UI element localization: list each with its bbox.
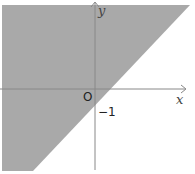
y-axis-label: y: [97, 3, 106, 18]
shaded-region: [2, 5, 190, 171]
inequality-graph: y x O −1: [0, 0, 195, 174]
y-intercept-label: −1: [98, 105, 116, 119]
x-axis-label: x: [176, 92, 184, 107]
origin-label: O: [83, 90, 92, 104]
